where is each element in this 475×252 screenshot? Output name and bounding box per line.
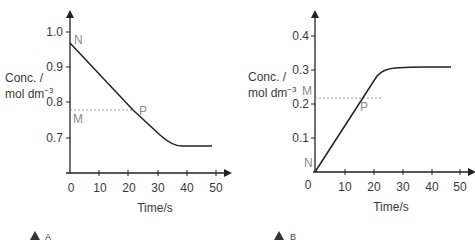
chart-b-xtick-0: 0 (305, 178, 312, 192)
chart-b-xtick-20: 20 (367, 180, 381, 194)
chart-a-label-n: N (74, 33, 83, 47)
chart-b-ytick-0.4: 0.4 (292, 29, 309, 43)
chart-a-label-p: P (139, 104, 147, 118)
chart-a-xtick-30: 30 (151, 181, 165, 195)
chart-a-xtick-20: 20 (122, 181, 136, 195)
chart-a-ytick-0.7: 0.7 (46, 131, 63, 145)
chart-a-label-m: M (73, 112, 83, 126)
chart-b-y-axis-title-line1: Conc. / (248, 70, 287, 84)
chart-b-label-p: P (360, 100, 368, 114)
chart-b-x-axis-title: Time/s (373, 200, 409, 214)
chart-b-xtick-10: 10 (338, 180, 352, 194)
chart-b-label-m: M (302, 84, 312, 98)
chart-a-xtick-0: 0 (68, 181, 75, 195)
chart-a-caption: A (45, 232, 51, 242)
chart-b-ytick-0.3: 0.3 (292, 63, 309, 77)
chart-a-ytick-1.0: 1.0 (46, 25, 63, 39)
chart-b-ytick-0.1: 0.1 (292, 131, 309, 145)
chart-b: 0.1 0.2 0.3 0.4 0 10 20 30 40 50 Time/s … (248, 14, 472, 242)
chart-a-xtick-40: 40 (180, 181, 194, 195)
chart-b-y-axis-title-line2: mol dm−3 (248, 85, 297, 100)
chart-b-xtick-40: 40 (425, 180, 439, 194)
chart-a-ytick-0.8: 0.8 (46, 95, 63, 109)
chart-b-caption-triangle-icon (274, 231, 284, 240)
chart-b-label-n: N (304, 156, 313, 170)
chart-a-curve (70, 43, 212, 146)
chart-a-caption-triangle-icon (30, 231, 40, 240)
chart-b-ytick-0.2: 0.2 (292, 97, 309, 111)
chart-a: 0.7 0.8 0.9 1.0 0 10 20 30 40 50 Time/s … (5, 14, 228, 242)
figure: 0.7 0.8 0.9 1.0 0 10 20 30 40 50 Time/s … (0, 0, 475, 252)
chart-a-xtick-50: 50 (209, 181, 223, 195)
chart-b-xtick-30: 30 (396, 180, 410, 194)
chart-b-caption: B (290, 232, 296, 242)
chart-a-x-axis-title: Time/s (137, 201, 173, 215)
chart-a-ytick-0.9: 0.9 (46, 60, 63, 74)
chart-a-y-axis-title-line1: Conc. / (5, 71, 44, 85)
chart-a-xtick-10: 10 (93, 181, 107, 195)
chart-b-xtick-50: 50 (453, 180, 467, 194)
chart-b-curve (315, 67, 451, 172)
